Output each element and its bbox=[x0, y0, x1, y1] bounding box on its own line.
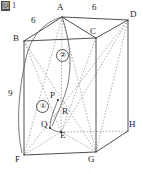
vertex-label-B: B bbox=[13, 34, 19, 43]
vertex-label-R: R bbox=[62, 107, 68, 116]
vertex-label-P: P bbox=[50, 91, 55, 100]
vertex-label-H: H bbox=[129, 120, 136, 129]
vertex-label-C: C bbox=[90, 27, 96, 36]
figure-tag-number: 1 bbox=[12, 2, 16, 10]
annotation-marker-2: ② bbox=[56, 49, 69, 62]
edge-A-D bbox=[62, 17, 128, 20]
dimension-label-BF: 9 bbox=[8, 89, 13, 98]
hidden-edges-group bbox=[24, 17, 128, 155]
point-P-dot bbox=[57, 99, 59, 101]
edge-E-H-hidden bbox=[61, 131, 128, 132]
marked-points-group bbox=[49, 99, 62, 133]
point-Q-dot bbox=[49, 127, 51, 129]
annotation-marker-1: ① bbox=[36, 100, 49, 113]
vertex-label-E: E bbox=[60, 131, 66, 140]
edge-G-H bbox=[96, 131, 128, 152]
vertex-label-F: F bbox=[15, 155, 20, 164]
arc-outer-A-to-F bbox=[19, 17, 62, 153]
edge-E-G-hidden bbox=[61, 132, 96, 152]
edge-D-G-hidden bbox=[96, 20, 128, 152]
vertex-label-A: A bbox=[57, 3, 64, 12]
edge-B-C bbox=[24, 38, 96, 41]
figure-caption: 図 1 bbox=[1, 1, 16, 11]
edge-F-G bbox=[24, 152, 96, 155]
solid-geometry-drawing bbox=[0, 0, 143, 174]
edge-B-A bbox=[24, 17, 62, 41]
vertex-label-G: G bbox=[88, 155, 95, 164]
figure-container: 図 1 A B C D E F G H P Q R 6 6 9 ① ② bbox=[0, 0, 143, 174]
dimension-label-AD: 6 bbox=[92, 3, 97, 12]
figure-tag-char: 図 bbox=[1, 1, 10, 11]
vertex-label-Q: Q bbox=[41, 120, 48, 129]
dimension-label-BA: 6 bbox=[31, 16, 36, 25]
vertex-label-D: D bbox=[130, 10, 137, 19]
edge-C-D bbox=[96, 20, 128, 38]
